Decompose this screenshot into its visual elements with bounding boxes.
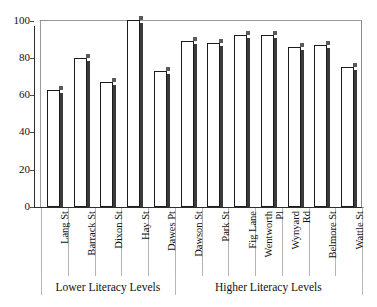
bar-front-face[interactable] xyxy=(207,43,220,207)
bar-front-face[interactable] xyxy=(127,20,140,207)
bar-front-face[interactable] xyxy=(74,58,87,207)
group-separator xyxy=(175,276,176,295)
bar-front-face[interactable] xyxy=(314,45,327,207)
group-separator xyxy=(362,276,363,295)
bar-front-face[interactable] xyxy=(341,67,354,207)
group-label: Higher Literacy Levels xyxy=(188,281,348,294)
group-label: Lower Literacy Levels xyxy=(28,281,188,294)
bar-front-face[interactable] xyxy=(47,90,60,207)
bar-front-face[interactable] xyxy=(261,35,274,207)
bar-front-face[interactable] xyxy=(288,47,301,207)
bar-front-face[interactable] xyxy=(234,35,247,207)
bar-front-face[interactable] xyxy=(100,82,113,207)
bar-front-face[interactable] xyxy=(154,71,167,207)
bar-chart-figure: 100806040200 Lang StBarrack StDixon StHa… xyxy=(0,0,377,307)
bar-front-face[interactable] xyxy=(181,41,194,207)
group-separator xyxy=(41,276,42,295)
